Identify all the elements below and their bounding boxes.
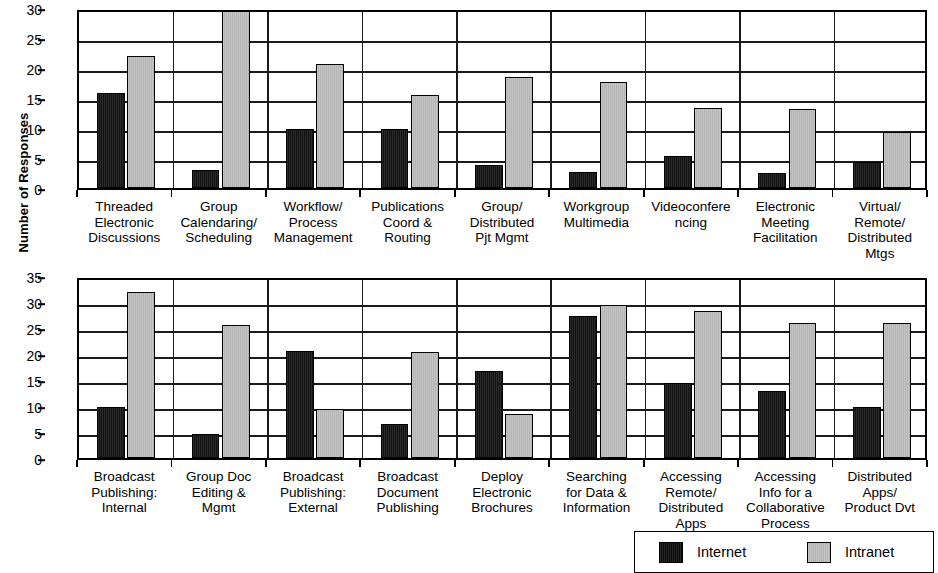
category-label: Accessing Info for a Collaborative Proce… xyxy=(738,469,832,531)
category-label: Publications Coord & Routing xyxy=(360,199,454,246)
legend-label-internet: Internet xyxy=(697,544,746,560)
x-tick-mark xyxy=(643,190,645,197)
y-tick-label: 35 xyxy=(8,271,42,285)
bar-internet xyxy=(664,383,692,458)
x-tick-mark xyxy=(171,190,173,197)
category-separator xyxy=(362,12,364,188)
x-tick-mark xyxy=(832,460,834,467)
chart-figure: Number of Responses 051015202530 Threade… xyxy=(0,0,938,573)
bar-internet xyxy=(192,170,220,188)
bar-internet xyxy=(758,391,786,458)
category-label: Group/ Distributed Pjt Mgmt xyxy=(455,199,549,246)
y-tick-mark xyxy=(38,99,45,101)
chart-top: 051015202530 Threaded Electronic Discuss… xyxy=(0,0,938,270)
y-tick-mark xyxy=(38,407,45,409)
category-separator xyxy=(456,280,458,458)
y-tick-label: 10 xyxy=(8,401,42,415)
category-label: Workgroup Multimedia xyxy=(549,199,643,230)
bar-intranet xyxy=(505,77,533,188)
category-separator xyxy=(739,280,741,458)
category-label: Group Calendaring/ Scheduling xyxy=(171,199,265,246)
y-tick-label: 15 xyxy=(8,93,42,107)
legend-swatch-internet-icon xyxy=(659,542,683,563)
bar-internet xyxy=(97,407,125,458)
x-tick-mark xyxy=(454,460,456,467)
y-tick-mark xyxy=(38,159,45,161)
y-tick-label: 15 xyxy=(8,375,42,389)
x-tick-mark xyxy=(737,460,739,467)
chart-legend: Internet Intranet xyxy=(634,531,934,573)
x-tick-mark xyxy=(265,460,267,467)
bar-intranet xyxy=(600,82,628,188)
x-tick-mark xyxy=(359,460,361,467)
y-tick-mark xyxy=(38,433,45,435)
bar-intranet xyxy=(789,109,817,188)
category-label: Videoconfere ncing xyxy=(644,199,738,230)
y-tick-mark xyxy=(38,69,45,71)
y-tick-label: 25 xyxy=(8,33,42,47)
x-tick-mark xyxy=(171,460,173,467)
y-tick-mark xyxy=(38,129,45,131)
bar-internet xyxy=(286,351,314,458)
y-tick-mark xyxy=(38,303,45,305)
legend-label-intranet: Intranet xyxy=(845,544,894,560)
category-label: Electronic Meeting Facilitation xyxy=(738,199,832,246)
bar-intranet xyxy=(316,64,344,188)
category-label: Threaded Electronic Discussions xyxy=(77,199,171,246)
category-label: Broadcast Publishing: Internal xyxy=(77,469,171,516)
bar-intranet xyxy=(505,414,533,458)
x-tick-mark xyxy=(359,190,361,197)
legend-swatch-intranet-icon xyxy=(807,542,831,563)
x-tick-mark xyxy=(548,190,550,197)
category-label: Virtual/ Remote/ Distributed Mtgs xyxy=(833,199,927,261)
gridline xyxy=(79,71,925,73)
bar-internet xyxy=(853,407,881,458)
category-label: Broadcast Document Publishing xyxy=(360,469,454,516)
y-tick-label: 30 xyxy=(8,297,42,311)
bar-internet xyxy=(475,371,503,458)
category-separator xyxy=(645,12,647,188)
y-tick-mark xyxy=(38,355,45,357)
bar-intranet xyxy=(316,409,344,458)
bar-internet xyxy=(286,129,314,188)
y-tick-label: 0 xyxy=(8,183,42,197)
category-separator xyxy=(173,280,175,458)
x-tick-mark xyxy=(926,460,928,467)
bar-intranet xyxy=(411,95,439,188)
y-tick-mark xyxy=(38,459,45,461)
x-tick-mark xyxy=(454,190,456,197)
y-tick-mark xyxy=(38,277,45,279)
plot-area-bottom xyxy=(77,278,927,460)
category-separator xyxy=(456,12,458,188)
bar-internet xyxy=(381,424,409,458)
bar-internet xyxy=(475,165,503,188)
bar-internet xyxy=(192,434,220,458)
bar-intranet xyxy=(127,56,155,188)
category-label: Broadcast Publishing: External xyxy=(266,469,360,516)
category-label: Workflow/ Process Management xyxy=(266,199,360,246)
category-separator xyxy=(739,12,741,188)
category-label: Accessing Remote/ Distributed Apps xyxy=(644,469,738,531)
x-tick-mark xyxy=(643,460,645,467)
bar-intranet xyxy=(883,323,911,458)
x-tick-mark xyxy=(76,190,78,197)
y-tick-label: 20 xyxy=(8,349,42,363)
category-separator xyxy=(834,280,836,458)
y-tick-mark xyxy=(38,189,45,191)
category-label: Searching for Data & Information xyxy=(549,469,643,516)
bar-intranet xyxy=(127,292,155,458)
chart-bottom: 05101520253035 Broadcast Publishing: Int… xyxy=(0,268,938,548)
y-tick-mark xyxy=(38,329,45,331)
y-tick-label: 0 xyxy=(8,453,42,467)
x-tick-mark xyxy=(737,190,739,197)
category-separator xyxy=(834,12,836,188)
bar-internet xyxy=(569,172,597,188)
legend-entry-internet: Internet xyxy=(659,540,746,564)
y-tick-label: 25 xyxy=(8,323,42,337)
bar-intranet xyxy=(789,323,817,458)
x-tick-mark xyxy=(926,190,928,197)
bar-intranet xyxy=(883,132,911,188)
category-separator xyxy=(267,280,269,458)
category-separator xyxy=(550,280,552,458)
y-tick-mark xyxy=(38,381,45,383)
